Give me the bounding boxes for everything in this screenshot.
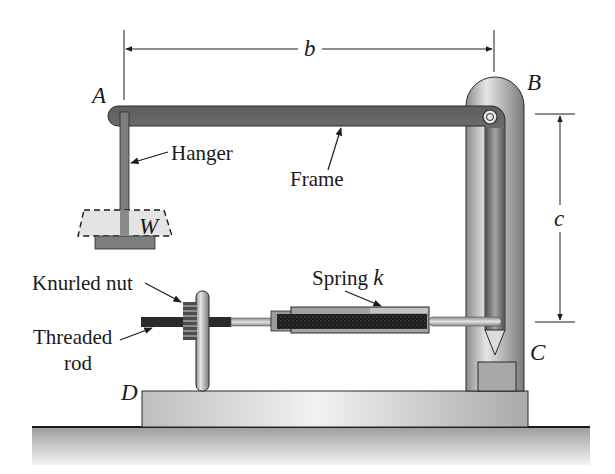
frame-arrow <box>328 128 341 170</box>
base-block <box>142 391 528 427</box>
ground <box>32 427 590 465</box>
point-b-label: B <box>527 70 541 95</box>
knurled-nut-arrow <box>145 283 181 302</box>
hanger-arrow <box>131 152 168 163</box>
point-d-label: D <box>120 380 138 405</box>
point-c-label: C <box>530 340 546 365</box>
bracket-post <box>196 291 209 391</box>
dimension-c-label: c <box>554 206 564 231</box>
dimension-b-label: b <box>304 36 316 61</box>
knurled-nut <box>183 302 197 340</box>
apparatus-diagram: A B C D b c W Hanger Frame Knurled nut S… <box>0 0 615 474</box>
threaded-rod-label-line2: rod <box>64 351 92 375</box>
spring-constant-symbol: k <box>373 265 384 290</box>
frame-label: Frame <box>290 167 344 191</box>
hanger-label: Hanger <box>171 141 233 165</box>
weight-label: W <box>139 214 160 239</box>
point-a-label: A <box>90 83 107 108</box>
spring-label: Spring k <box>312 265 384 290</box>
threaded-rod-arrow <box>120 328 152 340</box>
diagram-canvas: A B C D b c W Hanger Frame Knurled nut S… <box>0 0 615 474</box>
contact-block-c <box>478 362 516 391</box>
knurled-nut-label: Knurled nut <box>32 271 133 295</box>
pivot-b <box>483 110 497 124</box>
spring-arrow <box>345 291 381 306</box>
spring-label-text: Spring <box>312 266 373 290</box>
threaded-rod-label-line1: Threaded <box>33 325 113 349</box>
